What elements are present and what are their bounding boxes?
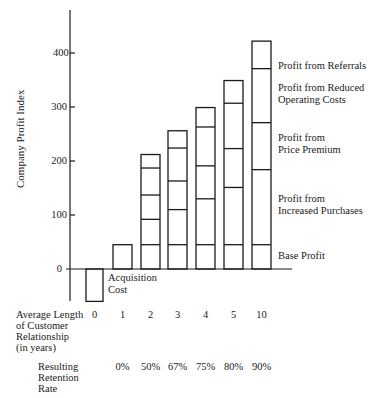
legend-referrals: Profit from Referrals bbox=[278, 60, 366, 72]
bar-year-1 bbox=[113, 245, 132, 269]
retention-rate-2: 50% bbox=[138, 361, 164, 373]
acquisition-cost-label-2: Cost bbox=[108, 284, 127, 296]
x-tick-1: 1 bbox=[115, 309, 131, 321]
bar-year-3 bbox=[168, 131, 187, 269]
y-tick-200: 200 bbox=[40, 155, 67, 167]
x-axis-title-4: (in years) bbox=[16, 342, 56, 354]
x-tick-10: 10 bbox=[254, 309, 270, 321]
retention-rate-5: 80% bbox=[221, 361, 247, 373]
y-tick-400: 400 bbox=[53, 47, 67, 59]
retention-title-3: Rate bbox=[38, 383, 57, 395]
x-tick-5: 5 bbox=[226, 309, 242, 321]
legend-increased-purchases-2: Increased Purchases bbox=[278, 205, 363, 217]
retention-rate-4: 75% bbox=[193, 361, 219, 373]
bar-year-10 bbox=[252, 41, 271, 269]
legend-price-premium-2: Price Premium bbox=[278, 144, 341, 156]
y-tick-0: 0 bbox=[40, 263, 62, 275]
x-tick-3: 3 bbox=[170, 309, 186, 321]
bar-year-2 bbox=[141, 155, 160, 269]
acquisition-cost-label-1: Acquisition bbox=[108, 272, 157, 284]
legend-reduced-costs-1: Profit from Reduced bbox=[278, 82, 364, 94]
x-tick-2: 2 bbox=[143, 309, 159, 321]
y-tick-300: 300 bbox=[40, 101, 67, 113]
x-tick-4: 4 bbox=[198, 309, 214, 321]
bar-year-0 bbox=[86, 269, 103, 301]
legend-base-profit: Base Profit bbox=[278, 250, 325, 262]
y-axis-label: Company Profit Index bbox=[14, 90, 26, 188]
bar-year-5 bbox=[224, 81, 243, 269]
retention-rate-10: 90% bbox=[249, 361, 275, 373]
legend-increased-purchases-1: Profit from bbox=[278, 193, 325, 205]
x-tick-0: 0 bbox=[87, 309, 103, 321]
legend-price-premium-1: Profit from bbox=[278, 132, 325, 144]
legend-reduced-costs-2: Operating Costs bbox=[278, 94, 346, 106]
retention-rate-3: 67% bbox=[165, 361, 191, 373]
retention-rate-1: 0% bbox=[110, 361, 136, 373]
y-tick-100: 100 bbox=[40, 209, 67, 221]
